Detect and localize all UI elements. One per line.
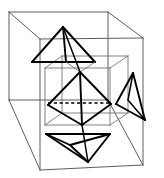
canvas-background [0,0,164,178]
figure-container [0,0,164,178]
geometric-line-drawing [0,0,164,178]
